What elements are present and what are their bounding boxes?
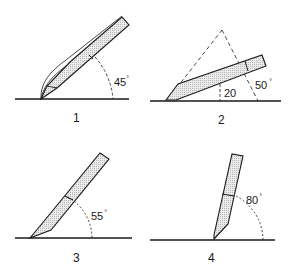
panel-1: 45° 1 (15, 16, 129, 125)
angle-arc (95, 57, 113, 99)
blade (214, 154, 243, 239)
angle-label: 80° (246, 193, 262, 206)
panel-number: 3 (73, 251, 80, 265)
panel-2: 20 50° 2 (150, 30, 281, 127)
angle-label: 45° (114, 75, 129, 88)
angle-arc (74, 201, 92, 238)
knife-angle-diagram: 45° 1 20 50° 2 55° 3 80° 4 (0, 0, 294, 272)
angle-label-high: 50° (255, 78, 272, 91)
panel-number: 2 (218, 113, 225, 127)
angle-label-low: 20 (224, 87, 236, 99)
blade (166, 55, 266, 100)
angle-label: 55° (91, 209, 107, 222)
panel-number: 1 (73, 111, 80, 125)
blade (30, 153, 109, 238)
panel-3: 55° 3 (15, 153, 132, 265)
panel-4: 80° 4 (150, 154, 275, 265)
panel-number: 4 (208, 251, 215, 265)
